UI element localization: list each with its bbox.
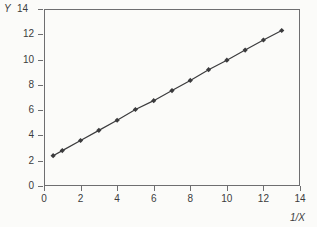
- chart-figure: Y 14 024681012 02468101214 1/X: [0, 0, 317, 227]
- x-tick-label: 10: [215, 193, 239, 204]
- data-point-marker: [133, 107, 138, 112]
- y-tick-mark: [38, 34, 43, 35]
- data-point-marker: [51, 153, 56, 158]
- y-tick-label: 0: [4, 181, 34, 191]
- y-tick-label: 10: [4, 55, 34, 65]
- series-line: [53, 30, 282, 155]
- data-point-marker: [151, 98, 156, 103]
- data-point-marker: [115, 118, 120, 123]
- plot-area: [44, 9, 300, 186]
- x-tick-label: 8: [178, 193, 202, 204]
- y-tick-mark: [38, 85, 43, 86]
- y-axis-label: Y: [4, 3, 11, 14]
- x-tick-label: 14: [288, 193, 312, 204]
- data-point-marker: [169, 88, 174, 93]
- y-tick-mark: [38, 9, 43, 10]
- x-tick-label: 2: [69, 193, 93, 204]
- x-tick-label: 0: [32, 193, 56, 204]
- y-tick-label: 8: [4, 80, 34, 90]
- x-tick-mark: [227, 186, 228, 191]
- y-tick-label: 4: [4, 130, 34, 140]
- x-tick-mark: [44, 186, 45, 191]
- x-tick-mark: [300, 186, 301, 191]
- x-tick-mark: [117, 186, 118, 191]
- data-series: [44, 9, 300, 186]
- x-tick-mark: [190, 186, 191, 191]
- data-point-marker: [60, 148, 65, 153]
- y-tick-mark: [38, 186, 43, 187]
- y-tick-label: 2: [4, 156, 34, 166]
- data-point-marker: [224, 58, 229, 63]
- data-point-marker: [206, 67, 211, 72]
- x-tick-mark: [81, 186, 82, 191]
- x-axis-label: 1/X: [290, 212, 305, 223]
- x-tick-label: 12: [251, 193, 275, 204]
- data-point-marker: [78, 138, 83, 143]
- y-tick-label: 12: [4, 29, 34, 39]
- x-tick-mark: [154, 186, 155, 191]
- x-tick-label: 4: [105, 193, 129, 204]
- y-tick-mark: [38, 135, 43, 136]
- y-tick-mark: [38, 161, 43, 162]
- y-tick-mark: [38, 60, 43, 61]
- data-point-marker: [279, 28, 284, 33]
- data-point-marker: [96, 128, 101, 133]
- y-tick-label: 6: [4, 105, 34, 115]
- data-point-marker: [243, 47, 248, 52]
- x-tick-mark: [263, 186, 264, 191]
- x-tick-label: 6: [142, 193, 166, 204]
- data-point-marker: [261, 37, 266, 42]
- y-axis-top-tick-label: 14: [17, 3, 28, 14]
- y-tick-mark: [38, 110, 43, 111]
- data-point-marker: [188, 78, 193, 83]
